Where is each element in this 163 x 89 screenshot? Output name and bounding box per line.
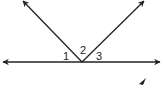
angle-label-2: 2 [80,45,86,56]
cursor-mark-icon [139,78,146,85]
right-ray [82,1,144,62]
left-ray [23,1,82,62]
angle-label-3: 3 [96,51,102,62]
angle-label-1: 1 [63,51,69,62]
